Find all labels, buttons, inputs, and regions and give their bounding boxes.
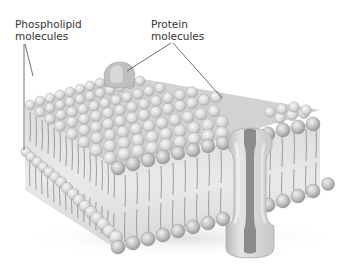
- protein-molecules-label: Protein molecules: [151, 18, 204, 42]
- phospholipid-molecules-label: Phospholipid molecules: [15, 18, 82, 42]
- leader-protein-top: [127, 43, 171, 71]
- protein-label-line2: molecules: [151, 30, 204, 42]
- protein-label-line1: Protein: [151, 18, 204, 30]
- leader-phospholipid-top: [25, 44, 33, 76]
- phospholipid-label-line1: Phospholipid: [15, 18, 82, 30]
- phospholipid-label-line2: molecules: [15, 30, 82, 42]
- protein-top-embedded: [104, 62, 135, 88]
